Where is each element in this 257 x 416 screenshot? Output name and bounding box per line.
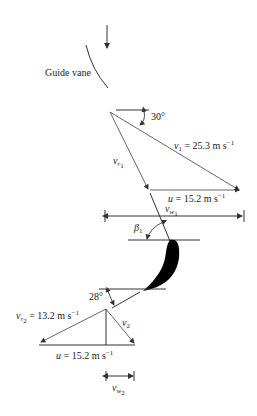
turbine-blade	[143, 240, 179, 291]
beta1-label: β1	[134, 223, 142, 235]
angle-30-label: 30°	[151, 112, 165, 122]
v1-sub: 1	[178, 145, 182, 153]
beta1-arc	[147, 222, 163, 239]
guide-vane-label: Guide vane	[45, 68, 91, 78]
diagram-canvas	[0, 0, 257, 416]
blade-outlet-direction	[112, 292, 140, 308]
angle-arc-28	[108, 291, 114, 305]
vr1-label: vr1	[113, 156, 124, 170]
u-outlet-value: = 15.2 m s	[64, 350, 106, 361]
angle-arc-30	[140, 111, 145, 125]
vw2-label: vw2	[112, 383, 125, 397]
vw1-subsub: 1	[174, 210, 178, 218]
vr2-subsub: 2	[23, 317, 27, 325]
vr2-label: vr2 = 13.2 m s−1	[16, 310, 79, 325]
vw1-label: vw1	[165, 204, 178, 218]
u-outlet-symbol: u	[56, 350, 61, 361]
v1-exp: −1	[227, 139, 234, 147]
v1-label: v1 = 25.3 m s−1	[174, 140, 234, 153]
vr2-value: = 13.2 m s	[29, 310, 71, 321]
vw2-subsub: 2	[121, 389, 125, 397]
vr2-exp: −1	[72, 309, 79, 317]
v2-label: v2	[122, 318, 130, 330]
u-outlet-exp: −1	[106, 349, 113, 357]
u-inlet-label: u = 15.2 m s−1	[168, 193, 225, 204]
vr1-subsub: 1	[120, 162, 124, 170]
u-inlet-exp: −1	[218, 192, 225, 200]
v2-sub: 2	[126, 322, 130, 330]
beta1-sub: 1	[139, 227, 143, 235]
u-inlet-value: = 15.2 m s	[176, 193, 218, 204]
u-outlet-label: u = 15.2 m s−1	[56, 350, 113, 361]
v1-value: = 25.3 m s	[184, 140, 226, 151]
angle-28-label: 28°	[89, 292, 103, 302]
